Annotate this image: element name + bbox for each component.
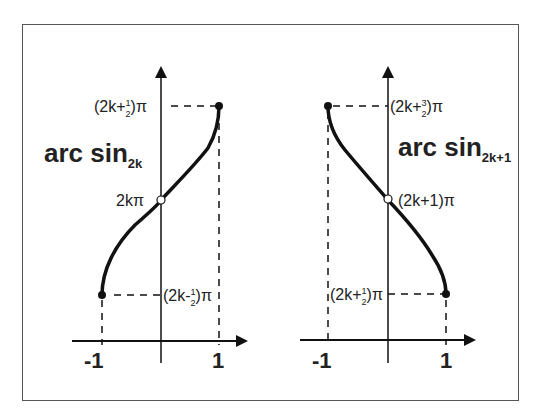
left-y-bottom-label: (2k-12)π [163, 287, 212, 308]
endpoint-top [215, 102, 223, 110]
figure-border [23, 25, 519, 401]
right-title: arc sin2k+1 [398, 132, 511, 165]
right-y-bottom-label: (2k+12)π [330, 286, 383, 307]
endpoint-bottom [98, 291, 106, 299]
left-y-mid-label: 2kπ [116, 192, 144, 209]
left-title: arc sin2k [44, 138, 143, 171]
left-plot: (2k+12)π 2kπ (2k-12)π arc sin2k -1 1 [44, 72, 242, 373]
center-point [384, 195, 392, 203]
endpoint-bottom [442, 290, 450, 298]
right-y-top-label: (2k+32)π [390, 98, 443, 119]
center-point [157, 196, 165, 204]
endpoint-top [324, 102, 332, 110]
arcsin-diagram: (2k+12)π 2kπ (2k-12)π arc sin2k -1 1 (2k… [0, 0, 555, 419]
left-x-minus1: -1 [84, 348, 104, 373]
left-x-1: 1 [212, 348, 224, 373]
right-y-mid-label: (2k+1)π [398, 192, 455, 209]
right-x-minus1: -1 [312, 348, 332, 373]
right-plot: (2k+32)π (2k+1)π (2k+12)π arc sin2k+1 -1… [300, 72, 511, 373]
right-x-1: 1 [440, 348, 452, 373]
left-y-top-label: (2k+12)π [94, 98, 147, 119]
